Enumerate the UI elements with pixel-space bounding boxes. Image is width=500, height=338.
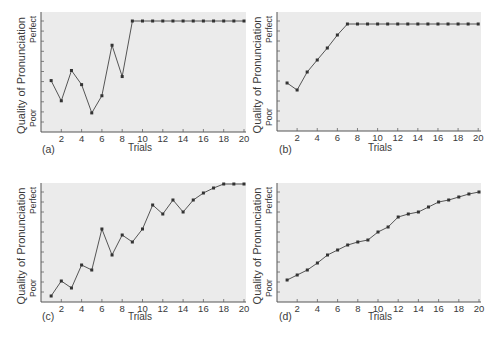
x-tick-label: 4 [79,303,84,314]
panel-label: (b) [279,143,292,155]
panel-label: (d) [279,310,292,322]
data-point [121,75,124,78]
data-point [457,196,460,199]
x-tick-label: 12 [158,303,169,314]
y-bottom-label: Poor [28,109,38,127]
data-point [141,20,144,23]
x-tick-label: 8 [120,303,125,314]
x-tick-label: 8 [355,132,360,143]
x-tick-label: 16 [433,303,444,314]
y-bottom-label: Poor [264,108,274,126]
data-point [436,23,439,26]
data-point [70,287,73,290]
panel-c: 2468101214161820Quality of Pronunciation… [15,183,249,323]
data-point [426,23,429,26]
data-point [296,89,299,92]
y-axis-title: Quality of Pronunciation [15,17,27,134]
data-point [202,20,205,23]
x-tick-label: 12 [158,133,169,144]
data-point [151,20,154,23]
data-point [222,183,225,186]
panel-b: 2468101214161820Quality of Pronunciation… [251,12,483,155]
x-tick-label: 14 [413,132,424,143]
data-point [202,192,205,195]
panel-d: 2468101214161820Quality of Pronunciation… [251,183,484,322]
x-tick-label: 18 [454,303,465,314]
data-point [111,44,114,47]
x-tick-label: 2 [295,303,300,314]
data-point [182,20,185,23]
data-point [296,274,299,277]
data-point [192,199,195,202]
data-point [447,23,450,26]
x-tick-label: 6 [99,303,104,314]
data-point [407,213,410,216]
x-tick-label: 12 [392,132,403,143]
data-point [366,239,369,242]
x-tick-label: 12 [393,303,404,314]
x-tick-label: 4 [79,133,84,144]
data-point [396,23,399,26]
panel-a: 2468101214161820Quality of Pronunciation… [15,12,249,155]
data-point [286,279,289,282]
x-tick-label: 8 [355,303,360,314]
data-point [306,71,309,74]
x-tick-label: 14 [178,303,189,314]
data-point [397,216,400,219]
data-point [161,213,164,216]
data-point [192,20,195,23]
data-point [417,211,420,214]
data-point [356,23,359,26]
x-tick-label: 14 [413,303,424,314]
data-point [212,187,215,190]
x-axis-title: Trials [128,311,152,322]
data-point [286,82,289,85]
data-point [100,94,103,97]
data-point [70,69,73,72]
data-point [467,193,470,196]
x-tick-label: 6 [99,133,104,144]
y-top-label: Perfect [264,15,274,43]
data-point [60,280,63,283]
x-axis-title: Trials [368,142,392,153]
data-point [356,241,359,244]
y-bottom-label: Poor [28,279,38,297]
data-point [80,264,83,267]
y-axis-title: Quality of Pronunciation [15,188,27,305]
data-point [131,241,134,244]
x-axis-title: Trials [368,311,392,322]
data-point [386,23,389,26]
data-point [336,249,339,252]
data-point [121,234,124,237]
data-point [232,183,235,186]
x-tick-label: 2 [294,132,299,143]
y-top-label: Perfect [28,15,38,43]
data-point [326,254,329,257]
plot-area [277,183,481,302]
x-tick-label: 20 [239,303,250,314]
data-point [377,231,380,234]
data-point [90,111,93,114]
data-point [80,83,83,86]
x-tick-label: 16 [198,303,209,314]
x-tick-label: 18 [218,133,229,144]
data-point [243,183,246,186]
x-tick-label: 20 [239,133,250,144]
data-point [182,211,185,214]
data-point [60,99,63,102]
data-point [141,228,144,231]
plot-area [41,12,246,132]
data-point [212,20,215,23]
x-tick-label: 16 [433,132,444,143]
x-tick-label: 6 [335,132,340,143]
data-point [387,226,390,229]
y-axis-title: Quality of Pronunciation [251,17,263,134]
x-tick-label: 18 [218,303,229,314]
x-tick-label: 2 [59,303,64,314]
data-point [447,199,450,202]
x-tick-label: 18 [453,132,464,143]
data-point [243,20,246,23]
data-point [50,79,53,82]
x-tick-label: 6 [335,303,340,314]
data-point [171,20,174,23]
